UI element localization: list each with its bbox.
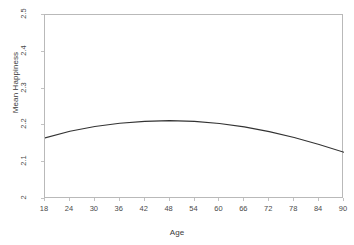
- y-tick-label: 2.2: [19, 111, 28, 137]
- x-tick-label: 18: [34, 204, 54, 213]
- x-tick-mark: [194, 198, 195, 201]
- x-tick-label: 36: [109, 204, 129, 213]
- x-tick-label: 30: [84, 204, 104, 213]
- chart-container: Mean Happiness 22.12.22.32.42.5 18243036…: [0, 0, 354, 245]
- y-tick-label: 2.1: [19, 148, 28, 174]
- plot-area: [44, 14, 343, 198]
- y-tick-label: 2.5: [19, 1, 28, 27]
- x-tick-mark: [243, 198, 244, 201]
- x-tick-mark: [94, 198, 95, 201]
- x-tick-label: 60: [208, 204, 228, 213]
- x-tick-mark: [144, 198, 145, 201]
- x-tick-label: 42: [134, 204, 154, 213]
- happiness-curve: [45, 121, 344, 153]
- x-tick-mark: [343, 198, 344, 201]
- x-tick-label: 54: [184, 204, 204, 213]
- x-tick-mark: [218, 198, 219, 201]
- y-tick-label: 2.3: [19, 74, 28, 100]
- y-tick-label: 2: [19, 185, 28, 211]
- x-tick-mark: [44, 198, 45, 201]
- x-tick-label: 24: [59, 204, 79, 213]
- x-tick-label: 66: [233, 204, 253, 213]
- x-tick-label: 90: [333, 204, 353, 213]
- x-tick-label: 72: [258, 204, 278, 213]
- plot-svg: [45, 15, 344, 199]
- y-tick-label: 2.4: [19, 37, 28, 63]
- x-tick-label: 84: [308, 204, 328, 213]
- x-tick-label: 48: [159, 204, 179, 213]
- x-tick-mark: [119, 198, 120, 201]
- x-tick-mark: [169, 198, 170, 201]
- x-tick-mark: [318, 198, 319, 201]
- x-tick-mark: [268, 198, 269, 201]
- x-axis-title: Age: [0, 228, 354, 237]
- x-tick-mark: [293, 198, 294, 201]
- x-tick-label: 78: [283, 204, 303, 213]
- x-tick-mark: [69, 198, 70, 201]
